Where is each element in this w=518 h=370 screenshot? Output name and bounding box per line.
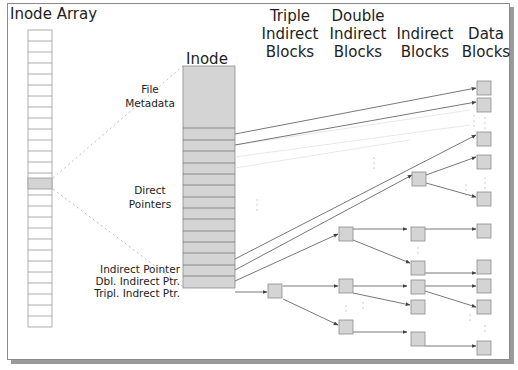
- data-block: [477, 192, 491, 206]
- indirect-block: [411, 300, 425, 314]
- header-line: Data: [455, 25, 517, 43]
- header-line: Triple: [255, 7, 325, 25]
- data-block: [477, 300, 491, 314]
- double-indirect-block: [339, 320, 353, 334]
- inode-title: Inode: [186, 50, 228, 68]
- header-line: Indirect: [255, 25, 325, 43]
- header-line: Double: [323, 7, 393, 25]
- data-block: [477, 81, 491, 95]
- inode-array-selected-row: [28, 178, 52, 189]
- double-indirect-header: Double Indirect Blocks: [323, 7, 393, 61]
- direct-pointers-label: Direct Pointers: [115, 183, 185, 211]
- triple-indirect-header: Triple Indirect Blocks: [255, 7, 325, 61]
- header-line: Blocks: [255, 43, 325, 61]
- label-line: Direct: [115, 183, 185, 197]
- indirect-block: [411, 280, 425, 294]
- header-line: Blocks: [455, 43, 517, 61]
- header-line: Indirect: [323, 25, 393, 43]
- file-metadata-label: File Metadata: [115, 82, 185, 110]
- data-block: [477, 98, 491, 112]
- double-indirect-block: [339, 227, 353, 241]
- triple-indirect-block: [268, 284, 282, 298]
- header-line: Blocks: [390, 43, 460, 61]
- inode-array-title: Inode Array: [10, 5, 97, 23]
- blocks: [268, 81, 491, 355]
- indirect-header: Indirect Blocks: [390, 25, 460, 61]
- indirect-block: [411, 332, 425, 346]
- header-line: Indirect: [390, 25, 460, 43]
- data-block: [477, 341, 491, 355]
- data-block: [477, 155, 491, 169]
- data-block: [477, 224, 491, 238]
- indirect-block: [411, 227, 425, 241]
- label-line: Metadata: [115, 96, 185, 110]
- tripl-indirect-label: Tripl. Indrect Ptr.: [70, 286, 180, 300]
- label-line: Pointers: [115, 197, 185, 211]
- label-line: File: [115, 82, 185, 96]
- data-blocks-header: Data Blocks: [455, 25, 517, 61]
- indirect-block: [412, 172, 426, 186]
- data-block: [477, 279, 491, 293]
- double-indirect-block: [339, 279, 353, 293]
- inode-block: [183, 66, 235, 288]
- header-line: Blocks: [323, 43, 393, 61]
- data-block: [477, 260, 491, 274]
- data-block: [477, 132, 491, 146]
- indirect-block: [411, 261, 425, 275]
